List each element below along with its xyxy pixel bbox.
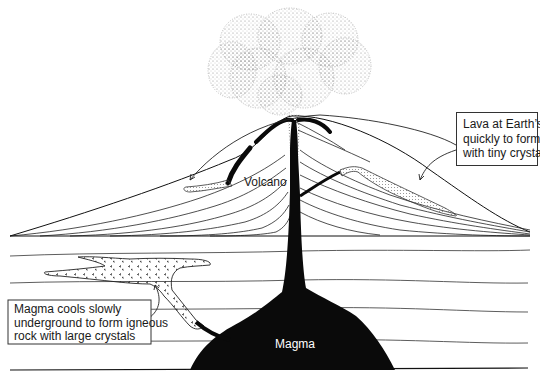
left-lava-tongue: [184, 180, 232, 192]
magma-callout: Magma cools slowly underground to form i…: [14, 303, 168, 344]
magma-callout-line-3: rock with large crystals: [14, 330, 168, 344]
lava-callout-line-1: Lava at Earth’s surface cools: [463, 117, 531, 132]
right-dike: [300, 172, 340, 196]
right-lava-flow: [340, 167, 456, 216]
lava-callout-line-2: quickly to form igneous rock: [463, 132, 531, 147]
lava-callout: Lava at Earth’s surface cools quickly to…: [456, 112, 538, 166]
ash-cloud: [208, 8, 371, 115]
magma-callout-line-1: Magma cools slowly: [14, 303, 168, 317]
magma-chamber: [190, 120, 395, 370]
lava-callout-line-3: with tiny crystals: [463, 146, 531, 161]
magma-label: Magma: [275, 337, 315, 351]
magma-callout-line-2: underground to form igneous: [14, 317, 168, 331]
volcano-diagram: Lava at Earth’s surface cools quickly to…: [0, 0, 540, 383]
volcano-label: Volcano: [244, 175, 287, 189]
